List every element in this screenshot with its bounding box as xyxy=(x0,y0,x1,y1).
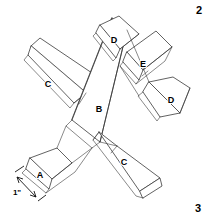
part-wing-right xyxy=(93,132,162,198)
label-tail-upper: D xyxy=(111,35,118,45)
label-fuselage: B xyxy=(96,104,103,114)
page-number-bottom: 3 xyxy=(195,203,201,214)
label-tail-lower: D xyxy=(168,95,175,105)
label-wing-left: C xyxy=(45,79,52,89)
dimension-label: 1" xyxy=(13,188,21,197)
figure-root: 1" C B C D D E A 2 3 xyxy=(0,0,208,220)
wing-right-top-face xyxy=(99,132,160,191)
assembly-drawing: 1" C B C D D E A xyxy=(0,0,208,220)
nose-to-fuselage-edge xyxy=(57,126,66,148)
dimension-extension-top xyxy=(15,166,24,172)
nose-underside-edge xyxy=(72,148,92,163)
label-wing-right: C xyxy=(121,157,128,167)
label-canopy: E xyxy=(140,59,146,69)
page-number-top: 2 xyxy=(196,5,202,16)
part-nose xyxy=(22,126,92,193)
dimension-extension-bottom xyxy=(38,195,46,201)
label-nose: A xyxy=(37,170,44,180)
part-tail-lower xyxy=(138,77,190,121)
